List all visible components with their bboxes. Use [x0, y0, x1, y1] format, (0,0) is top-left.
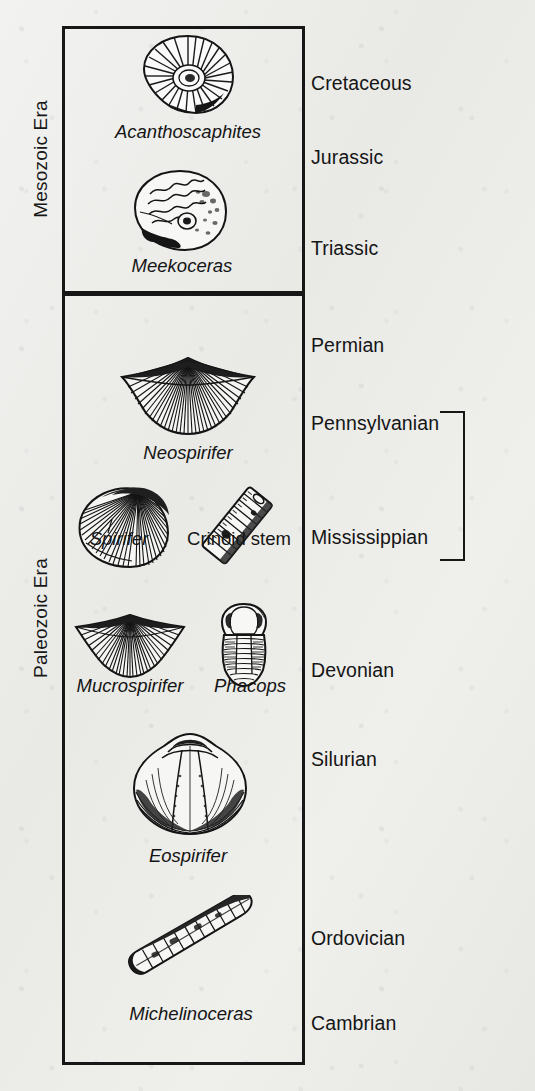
- era-label-paleozoic: Paleozoic Era: [30, 553, 52, 683]
- fossil-art-spirifer: [76, 483, 172, 571]
- era-label-mesozoic: Mesozoic Era: [30, 97, 52, 222]
- period-label-triassic: Triassic: [311, 237, 378, 260]
- period-label-silurian: Silurian: [311, 748, 377, 771]
- period-label-permian: Permian: [311, 334, 384, 357]
- period-label-pennsylvanian: Pennsylvanian: [311, 412, 439, 435]
- period-label-devonian: Devonian: [311, 659, 394, 682]
- fossil-art-meekoceras: [132, 168, 230, 254]
- fossil-caption-mucrospirifer: Mucrospirifer: [61, 675, 199, 697]
- carboniferous-bracket: [440, 411, 465, 561]
- fossil-caption-crinoid-stem: Crinoid stem: [174, 528, 304, 550]
- fossil-art-crinoid-stem: [198, 482, 278, 570]
- fossil-caption-spirifer: Spirifer: [71, 528, 167, 550]
- fossil-caption-meekoceras: Meekoceras: [112, 255, 252, 277]
- period-label-mississippian: Mississippian: [311, 526, 428, 549]
- fossil-caption-michelinoceras: Michelinoceras: [106, 1003, 276, 1025]
- fossil-art-acanthoscaphites: [138, 33, 238, 119]
- period-label-ordovician: Ordovician: [311, 927, 405, 950]
- fossil-caption-neospirifer: Neospirifer: [118, 442, 258, 464]
- fossil-art-neospirifer: [118, 355, 258, 437]
- period-label-cambrian: Cambrian: [311, 1012, 396, 1035]
- fossil-art-mucrospirifer: [72, 613, 188, 679]
- fossil-caption-eospirifer: Eospirifer: [120, 845, 256, 867]
- period-label-cretaceous: Cretaceous: [311, 72, 412, 95]
- fossil-caption-acanthoscaphites: Acanthoscaphites: [108, 121, 268, 143]
- fossil-timeline-figure: Mesozoic Era Paleozoic Era Cretaceous Ju…: [0, 0, 535, 1091]
- fossil-art-michelinoceras: [112, 895, 272, 989]
- fossil-art-eospirifer: [128, 730, 252, 840]
- period-label-jurassic: Jurassic: [311, 146, 383, 169]
- fossil-caption-phacops: Phacops: [202, 675, 298, 697]
